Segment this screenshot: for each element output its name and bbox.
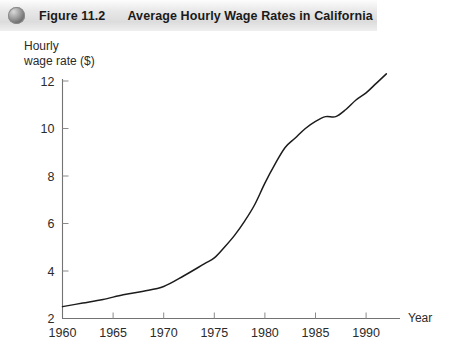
figure-title: Average Hourly Wage Rates in California <box>127 9 372 23</box>
x-axis-title: Year <box>408 311 432 325</box>
x-tick-label: 1980 <box>251 326 279 340</box>
data-series-line <box>63 74 387 307</box>
y-tick-label: 6 <box>48 217 55 231</box>
y-tick-label: 4 <box>48 265 55 279</box>
y-tick-group: 24681012 <box>41 75 69 327</box>
figure-header-bar: Figure 11.2 Average Hourly Wage Rates in… <box>0 0 377 31</box>
x-tick-label: 1965 <box>99 326 127 340</box>
line-chart: Hourly wage rate ($) 24681012 1960196519… <box>0 31 470 357</box>
x-tick-label: 1975 <box>200 326 228 340</box>
y-tick-label: 8 <box>48 170 55 184</box>
y-tick-label: 2 <box>48 312 55 326</box>
y-axis-title-line1: Hourly <box>24 39 59 53</box>
x-tick-label: 1985 <box>302 326 330 340</box>
y-tick-label: 12 <box>41 75 55 89</box>
x-tick-label: 1970 <box>150 326 178 340</box>
figure-number-label: Figure 11.2 <box>39 9 105 23</box>
header-bar-filler <box>377 0 470 31</box>
x-tick-label: 1990 <box>352 326 380 340</box>
y-axis-title-line2: wage rate ($) <box>23 54 95 68</box>
x-tick-label: 1960 <box>49 326 77 340</box>
chart-canvas: Hourly wage rate ($) 24681012 1960196519… <box>0 31 470 357</box>
filled-circle-icon <box>8 7 25 24</box>
x-tick-group: 1960196519701975198019851990 <box>49 313 380 340</box>
y-tick-label: 10 <box>41 122 55 136</box>
